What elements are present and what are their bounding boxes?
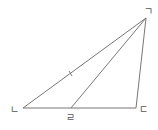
segment-giyeok-digeut bbox=[136, 18, 146, 108]
segment-giyeok-rieul bbox=[71, 18, 146, 108]
segment-giyeok-nieun bbox=[23, 18, 146, 108]
vertex-label-digeut: ㄷ bbox=[139, 104, 148, 115]
vertex-label-rieul: ㄹ bbox=[66, 112, 75, 123]
triangle-diagram: ㄱ ㄴ ㄹ ㄷ bbox=[0, 0, 158, 130]
vertex-label-giyeok: ㄱ bbox=[144, 6, 153, 17]
vertex-label-nieun: ㄴ bbox=[10, 104, 19, 115]
